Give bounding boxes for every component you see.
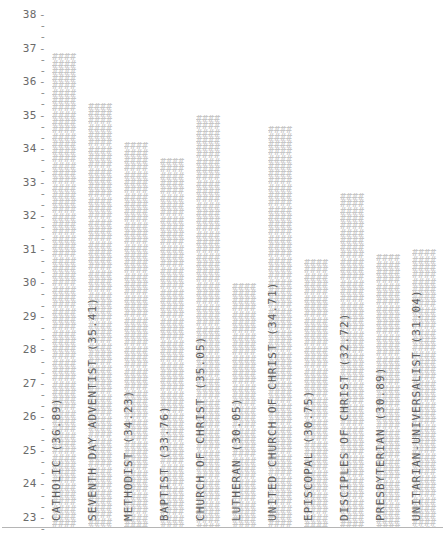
y-tick-value: 34 bbox=[23, 142, 37, 155]
y-tick-mark: - bbox=[37, 166, 46, 176]
y-tick-value: 29 bbox=[23, 310, 37, 323]
bar-category-label-text: BAPTIST (33.76) bbox=[159, 405, 170, 521]
bar-category-label-text: DISCIPLES OF CHRIST (32.72) bbox=[339, 312, 350, 521]
bar-category-label-text: SEVENTH DAY ADVENTIST (35.41) bbox=[87, 297, 98, 521]
y-axis: 38---37---36---35---34---33---32---31---… bbox=[0, 0, 48, 534]
y-tick-value: 23 bbox=[23, 511, 37, 524]
y-tick-mark: - bbox=[37, 524, 46, 534]
bar-slot[interactable]: ########################################… bbox=[376, 254, 406, 527]
y-tick-value: 24 bbox=[23, 477, 37, 490]
y-tick-value: 38 bbox=[23, 8, 37, 21]
y-tick-value: 30 bbox=[23, 276, 37, 289]
y-tick-mark: - bbox=[37, 32, 46, 42]
bar-slot[interactable]: ########################################… bbox=[304, 259, 334, 527]
bar-category-label-text: METHODIST (34.23) bbox=[123, 390, 134, 521]
bar-slot[interactable]: ########################################… bbox=[232, 283, 262, 527]
bar-slot[interactable]: ########################################… bbox=[160, 158, 190, 527]
bar-category-label-text: PRESBYTERIAN (30.89) bbox=[375, 367, 386, 521]
y-tick-value: 36 bbox=[23, 75, 37, 88]
x-axis-line bbox=[2, 527, 443, 528]
bar-slot[interactable]: ########################################… bbox=[412, 249, 442, 527]
y-tick-value: 33 bbox=[23, 176, 37, 189]
ascii-bar-chart: 38---37---36---35---34---33---32---31---… bbox=[0, 0, 443, 534]
bar-category-label-text: EPISCOPAL (30.75) bbox=[303, 390, 314, 521]
y-tick-value: 37 bbox=[23, 42, 37, 55]
plot-area: ########################################… bbox=[48, 0, 443, 534]
y-tick-value: 31 bbox=[23, 243, 37, 256]
bar-category-label-text: LUTHERAN (30.05) bbox=[231, 397, 242, 521]
y-minor-tick: - bbox=[0, 524, 46, 534]
y-tick-value: 28 bbox=[23, 343, 37, 356]
y-tick-mark: - bbox=[37, 357, 46, 367]
y-tick-value: 35 bbox=[23, 109, 37, 122]
bar-slot[interactable]: ########################################… bbox=[88, 103, 118, 527]
y-tick-value: 27 bbox=[23, 377, 37, 390]
bar-category-label-text: UNITED CHURCH OF CHRIST (34.71) bbox=[267, 282, 278, 521]
y-tick-mark: - bbox=[37, 99, 46, 109]
y-tick-value: 25 bbox=[23, 444, 37, 457]
bar-slot[interactable]: ########################################… bbox=[196, 115, 226, 527]
bar-slot[interactable]: ########################################… bbox=[52, 53, 82, 527]
y-tick-value: 32 bbox=[23, 209, 37, 222]
bar-category-label-text: UNITARIAN-UNIVERSALIST (31.04) bbox=[411, 289, 422, 521]
bar-slot[interactable]: ########################################… bbox=[268, 126, 298, 527]
y-tick-value: 26 bbox=[23, 410, 37, 423]
bar-category-label-text: CHURCH OF CHRIST (35.05) bbox=[195, 336, 206, 521]
bar-category-label-text: CATHOLIC (36.89) bbox=[51, 397, 62, 521]
y-minor-tick: - bbox=[0, 222, 46, 232]
y-tick-mark: - bbox=[37, 289, 46, 299]
y-minor-tick: - bbox=[0, 357, 46, 367]
bar-slot[interactable]: ########################################… bbox=[124, 142, 154, 527]
bar-slot[interactable]: ########################################… bbox=[340, 193, 370, 527]
y-minor-tick: - bbox=[0, 289, 46, 299]
y-tick-mark: - bbox=[37, 222, 46, 232]
